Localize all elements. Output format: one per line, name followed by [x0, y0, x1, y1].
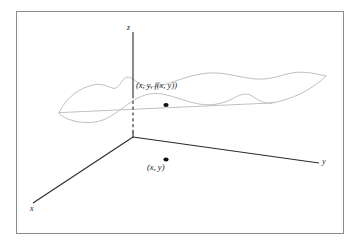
plane-point-label: (x, y)	[147, 163, 164, 172]
figure-canvas: z x y (x, y, f(x, y)) (x, y)	[0, 0, 360, 248]
x-axis-label: x	[30, 205, 34, 213]
figure-frame	[16, 11, 344, 234]
z-axis-label: z	[127, 24, 130, 32]
y-axis-label: y	[322, 158, 326, 166]
surface-point-label: (x, y, f(x, y))	[136, 81, 177, 90]
